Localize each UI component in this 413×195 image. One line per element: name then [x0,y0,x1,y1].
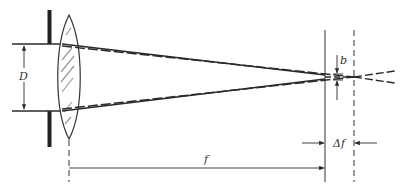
label-b: b [340,54,347,67]
aperture-diameter-dimension: D [16,46,32,109]
lens [58,15,81,139]
focal-length-dimension: f [69,153,324,168]
optics-diagram: D b Δf f [0,0,413,195]
label-delta-f: Δf [332,137,347,150]
depth-of-focus-dimension: Δf [302,137,377,150]
label-f: f [203,153,210,166]
aperture-stop [48,10,52,147]
label-D: D [18,70,28,83]
